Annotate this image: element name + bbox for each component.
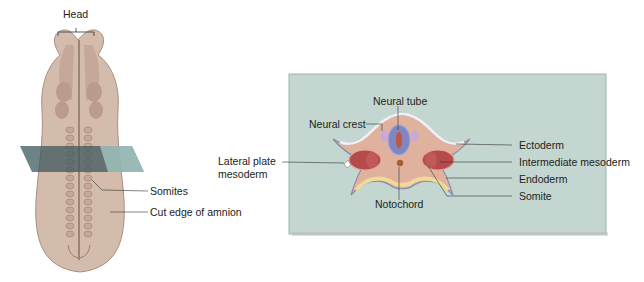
label-neural-tube: Neural tube [373,95,427,107]
label-somites: Somites [150,185,188,197]
label-endoderm: Endoderm [519,173,567,185]
label-notochord: Notochord [375,198,423,210]
label-intermediate-mesoderm: Intermediate mesoderm [519,156,630,168]
label-cut-edge-of-amnion: Cut edge of amnion [150,206,242,218]
label-neural-crest: Neural crest [309,118,366,130]
label-head: Head [63,8,88,20]
label-somite: Somite [519,190,552,202]
label-ectoderm: Ectoderm [519,139,564,151]
label-lateral-plate-line1: Lateral plate [218,155,276,167]
label-lateral-plate-line2: mesoderm [218,168,268,180]
